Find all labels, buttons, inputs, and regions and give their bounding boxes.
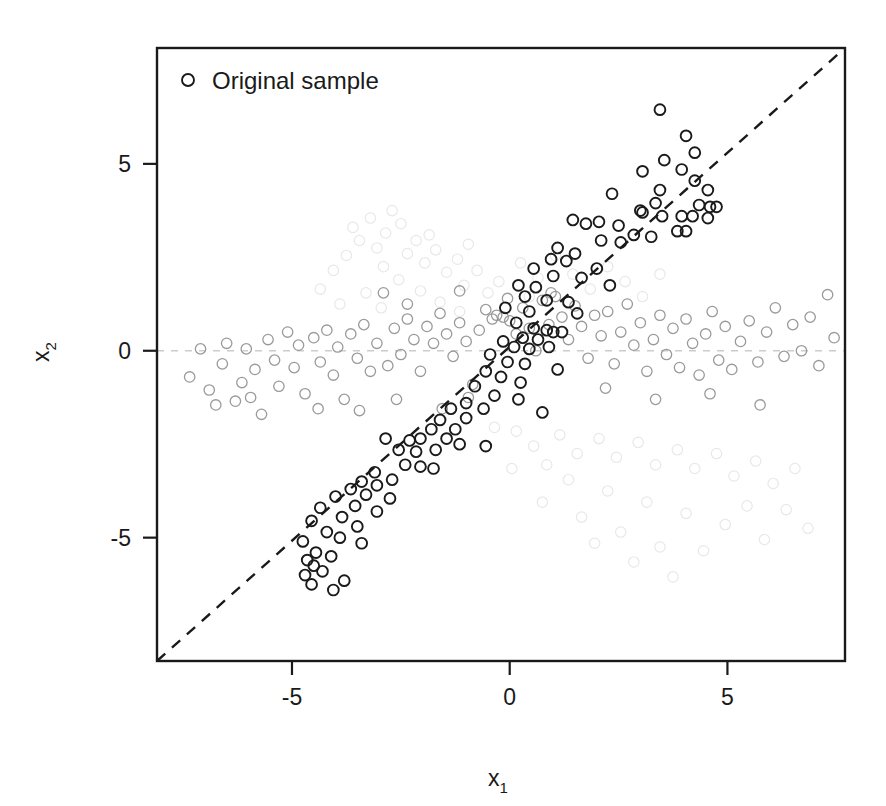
y-axis-title-base: x [28, 350, 54, 362]
x-axis-title-subscript: 1 [500, 779, 508, 796]
y-axis-title-subscript: 2 [42, 342, 59, 350]
x-axis-title-base: x [488, 765, 500, 791]
y-axis-tick-label: -5 [111, 525, 131, 551]
x-axis-tick-label: 5 [721, 684, 734, 710]
x-axis-tick-label: -5 [282, 684, 302, 710]
legend[interactable]: Original sample [182, 67, 379, 94]
legend-label-original-sample: Original sample [212, 67, 379, 94]
scatter-plot-figure: -505-505 Original sample x1 x2 [0, 0, 886, 806]
x-axis-tick-label: 0 [503, 684, 516, 710]
y-axis-tick-label: 0 [118, 338, 131, 364]
y-axis-tick-label: 5 [118, 151, 131, 177]
plot-canvas: -505-505 Original sample x1 x2 [0, 0, 886, 806]
